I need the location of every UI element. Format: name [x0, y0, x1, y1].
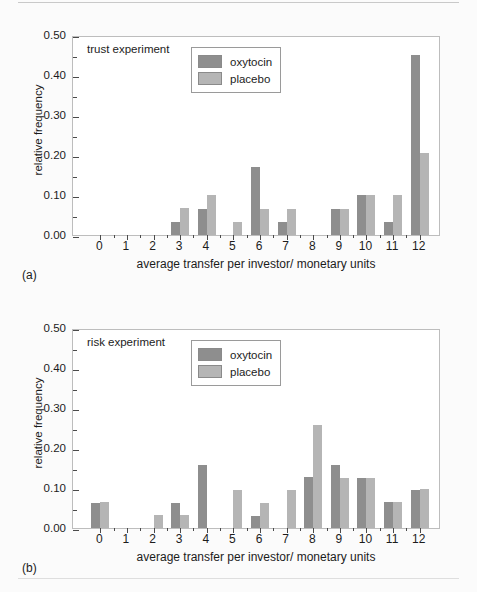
y-tick: [73, 510, 77, 511]
x-tick-minor: [220, 235, 221, 238]
legend-row-oxytocin-b: oxytocin: [198, 346, 272, 363]
bar-oxytocin-11: [384, 502, 393, 528]
y-axis-labels-a: 0.000.100.200.300.400.50: [22, 36, 66, 236]
x-tick-minor: [247, 235, 248, 238]
x-tick-minor: [140, 528, 141, 531]
y-tick: [73, 490, 79, 491]
x-tick-label: 12: [407, 533, 431, 545]
bar-oxytocin-6: [251, 167, 260, 235]
legend-row-oxytocin-a: oxytocin: [198, 53, 272, 70]
x-tick-minor: [247, 528, 248, 531]
bar-oxytocin-10: [357, 195, 366, 235]
figure-page: relative frequency 0.000.100.200.300.400…: [0, 0, 477, 592]
bar-placebo-5: [233, 222, 242, 235]
x-axis-labels-b: 0123456789101112: [72, 533, 440, 549]
y-tick: [73, 197, 79, 198]
y-tick: [73, 177, 77, 178]
x-tick-minor: [193, 528, 194, 531]
x-tick-label: 8: [300, 240, 324, 252]
x-axis-title-a: average transfer per investor/ monetary …: [72, 257, 440, 271]
y-tick-label: 0.10: [26, 483, 66, 495]
x-axis-labels-a: 0123456789101112: [72, 240, 440, 256]
legend-b: oxytocin placebo: [191, 340, 281, 386]
y-tick: [73, 530, 79, 531]
x-tick-label: 0: [87, 533, 111, 545]
legend-swatch-placebo-icon: [198, 365, 222, 378]
y-tick-label: 0.20: [26, 443, 66, 455]
y-tick: [73, 350, 77, 351]
x-tick-label: 3: [167, 240, 191, 252]
y-tick-label: 0.20: [26, 150, 66, 162]
y-axis-labels-b: 0.000.100.200.300.400.50: [22, 329, 66, 529]
bar-placebo-11: [393, 195, 402, 235]
y-tick: [73, 37, 79, 38]
y-tick: [73, 137, 77, 138]
experiment-label-b: risk experiment: [87, 336, 165, 348]
x-tick-label: 7: [274, 240, 298, 252]
bar-oxytocin-6: [251, 516, 260, 528]
x-tick-label: 0: [87, 240, 111, 252]
bar-placebo-6: [260, 209, 269, 235]
x-tick-minor: [167, 235, 168, 238]
plot-area-b: risk experiment oxytocin placebo: [72, 329, 440, 529]
bar-placebo-5: [233, 490, 242, 528]
bar-placebo-9: [340, 478, 349, 528]
bar-oxytocin-3: [171, 503, 180, 528]
bar-oxytocin-10: [357, 478, 366, 528]
y-tick-label: 0.00: [26, 230, 66, 242]
x-tick-label: 4: [194, 533, 218, 545]
x-tick-label: 10: [353, 533, 377, 545]
y-tick-label: 0.00: [26, 523, 66, 535]
x-tick-minor: [273, 235, 274, 238]
y-tick: [73, 470, 77, 471]
x-tick-minor: [380, 528, 381, 531]
x-tick-minor: [300, 235, 301, 238]
bar-placebo-4: [207, 195, 216, 235]
legend-label-oxytocin-b: oxytocin: [230, 349, 272, 361]
y-tick-label: 0.10: [26, 190, 66, 202]
bar-oxytocin-12: [411, 490, 420, 528]
legend-label-placebo-a: placebo: [230, 73, 270, 85]
y-tick-label: 0.40: [26, 363, 66, 375]
legend-swatch-placebo-icon: [198, 72, 222, 85]
bar-oxytocin-8: [304, 477, 313, 528]
x-tick-label: 9: [327, 240, 351, 252]
panel-tag-a: (a): [22, 268, 37, 282]
x-tick-minor: [380, 235, 381, 238]
bar-placebo-10: [366, 195, 375, 235]
experiment-label-a: trust experiment: [87, 43, 169, 55]
x-tick-minor: [114, 235, 115, 238]
x-tick-label: 10: [353, 240, 377, 252]
x-tick-label: 5: [220, 533, 244, 545]
bar-placebo-7: [287, 209, 296, 235]
bar-placebo-11: [393, 502, 402, 528]
y-tick: [73, 370, 79, 371]
bar-oxytocin-7: [278, 222, 287, 235]
y-tick: [73, 430, 77, 431]
x-tick-label: 2: [141, 240, 165, 252]
legend-row-placebo-a: placebo: [198, 70, 272, 87]
x-tick-minor: [300, 528, 301, 531]
page-top-divider: [18, 2, 459, 3]
x-tick-label: 9: [327, 533, 351, 545]
x-tick-minor: [406, 528, 407, 531]
y-tick: [73, 217, 77, 218]
bar-placebo-7: [287, 490, 296, 528]
x-tick-minor: [327, 528, 328, 531]
x-tick-label: 1: [114, 240, 138, 252]
x-tick-label: 12: [407, 240, 431, 252]
x-tick-minor: [193, 235, 194, 238]
chart-panel-a: relative frequency 0.000.100.200.300.400…: [0, 10, 477, 295]
bar-placebo-12: [420, 153, 429, 235]
legend-swatch-oxytocin-icon: [198, 55, 222, 68]
x-tick-minor: [327, 235, 328, 238]
bar-oxytocin-9: [331, 209, 340, 235]
bar-placebo-9: [340, 209, 349, 235]
x-tick-minor: [353, 528, 354, 531]
y-tick: [73, 57, 77, 58]
x-tick-label: 6: [247, 533, 271, 545]
y-tick: [73, 237, 79, 238]
y-tick-label: 0.30: [26, 110, 66, 122]
y-tick-label: 0.50: [26, 323, 66, 335]
bar-oxytocin-4: [198, 209, 207, 235]
